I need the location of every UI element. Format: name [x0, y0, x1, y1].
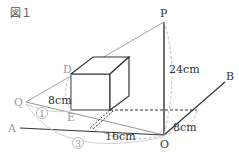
ratio-label-1: 1	[39, 109, 45, 119]
measure-8cm: 8cm	[173, 121, 197, 134]
label-A: A	[7, 122, 17, 135]
measure-16cm: 16cm	[105, 130, 136, 143]
label-Q: Q	[14, 96, 23, 109]
arc-PO-24cm	[164, 22, 172, 135]
label-D: D	[63, 63, 72, 76]
measure-PO: 24cm	[169, 63, 200, 76]
label-E: E	[67, 111, 75, 124]
cube-front-face	[71, 74, 110, 110]
label-B: B	[226, 70, 234, 83]
figure-title: 図１	[10, 7, 32, 20]
measure-DE: 8cm	[48, 94, 72, 107]
dashed-line-diagonal-1	[90, 110, 110, 128]
label-O: O	[160, 138, 169, 151]
ratio-label-3: 3	[75, 139, 81, 149]
cube	[71, 57, 129, 110]
label-P: P	[160, 7, 168, 20]
geometry-diagram: 図１ 1 3 P O A B Q D E 24cm 8cm 16cm 8cm	[0, 0, 239, 152]
